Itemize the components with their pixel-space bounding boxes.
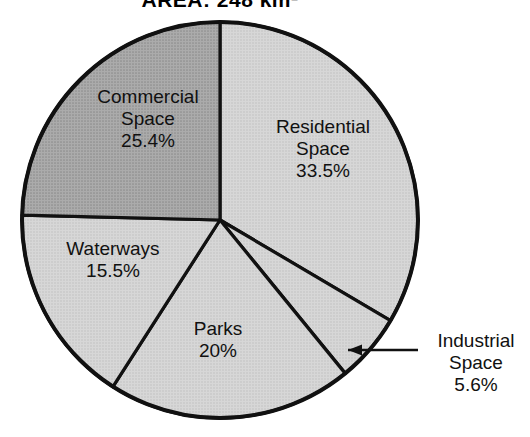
pie-label-industrial-percent: 5.6% — [424, 374, 528, 396]
pie-label-industrial-name: Industrial — [424, 330, 528, 352]
pie-label-industrial-name2: Space — [424, 352, 528, 374]
pie-label-industrial: Industrial Space 5.6% — [424, 330, 528, 396]
pie-chart: AREA: 248 km² Commerci — [0, 0, 530, 437]
pie-slice-commercial — [22, 22, 220, 220]
